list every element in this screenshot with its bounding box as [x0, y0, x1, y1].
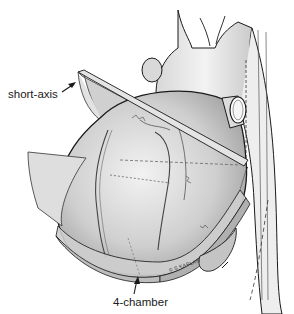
- heart-drawing: [0, 0, 294, 314]
- heart-illustration: short-axis 4-chamber © S KAPLAN: [0, 0, 294, 314]
- short-axis-label: short-axis: [8, 88, 58, 100]
- four-chamber-label: 4-chamber: [113, 296, 168, 308]
